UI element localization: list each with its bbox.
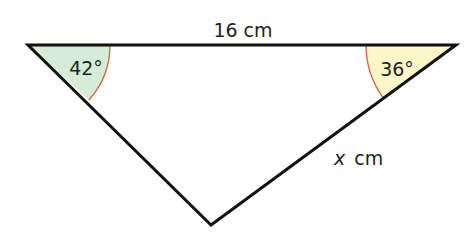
triangle-diagram: 16 cm 42° 36° x cm [0, 0, 473, 238]
left-angle-label: 42° [69, 57, 103, 79]
right-side-label: x cm [333, 147, 383, 169]
right-side-variable: x [333, 147, 346, 169]
right-angle-label: 36° [380, 58, 414, 80]
top-side-label: 16 cm [213, 19, 272, 41]
right-side-unit: cm [354, 147, 383, 169]
